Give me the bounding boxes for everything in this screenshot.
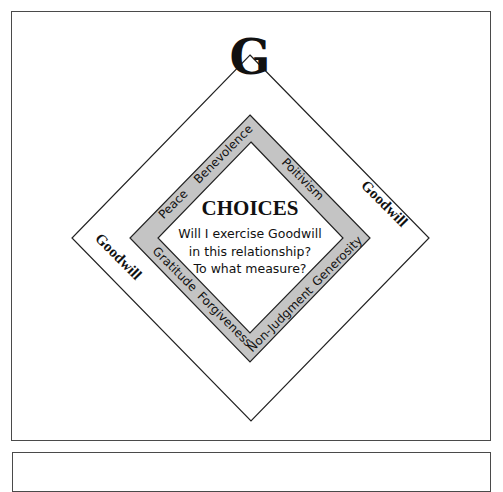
center-line-3: To what measure? [193,261,307,276]
center-title: CHOICES [202,196,299,220]
lower-frame [12,452,491,492]
center-line-2: in this relationship? [189,244,311,259]
center-line-1: Will I exercise Goodwill [178,226,321,241]
top-letter-g: G [230,29,271,85]
